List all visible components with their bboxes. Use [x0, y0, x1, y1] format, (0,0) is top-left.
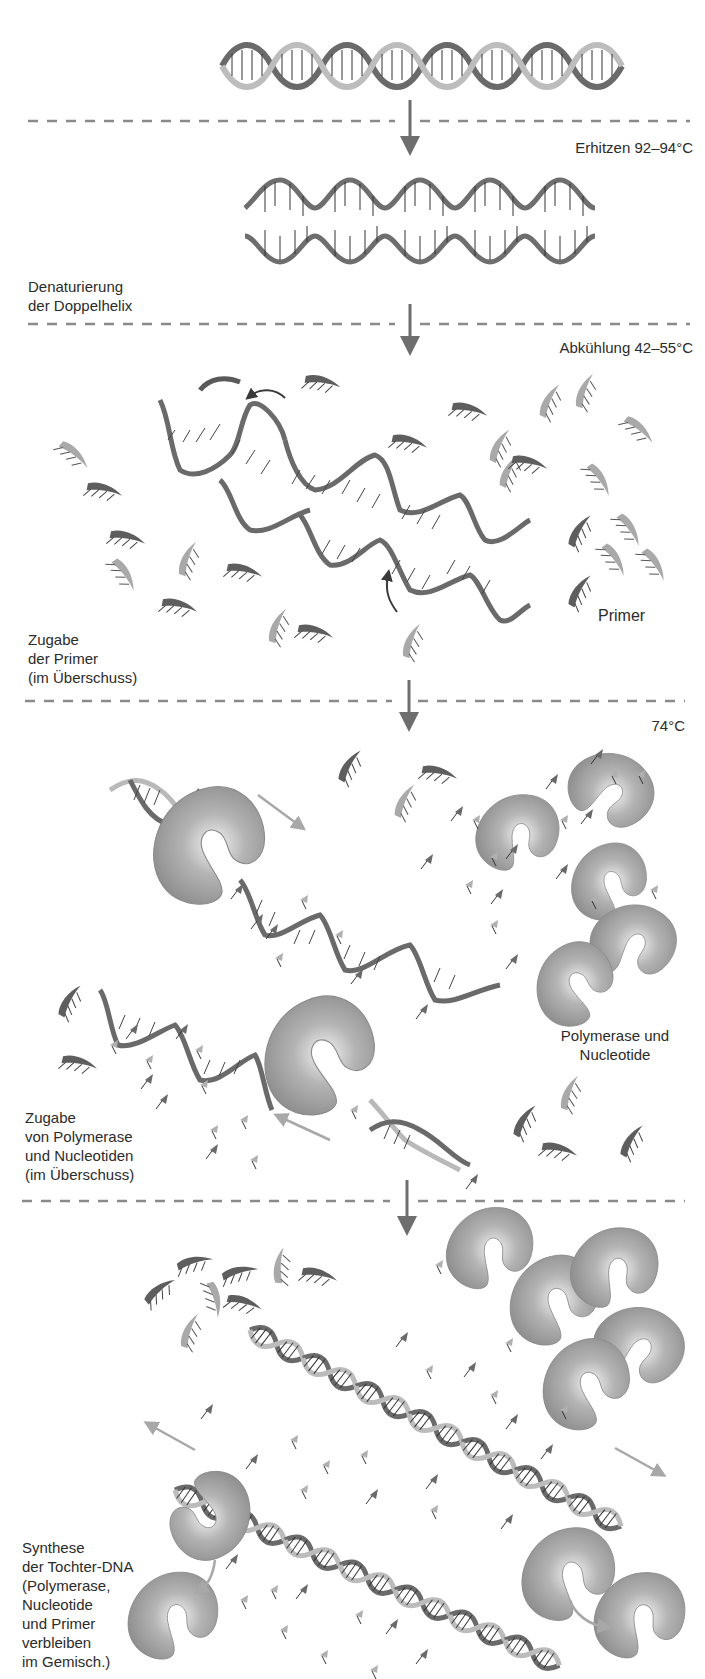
annotation-line: Polymerase und: [540, 1026, 690, 1045]
annealing-arrow-bottom: [387, 575, 397, 612]
stage-label-line: (im Überschuss): [28, 668, 137, 687]
step-arrows: [397, 100, 420, 1236]
annealing-arrow-top: [250, 390, 285, 398]
stage-label-line: Zugabe: [28, 630, 137, 649]
stage-label-line: im Gemisch.): [22, 1652, 133, 1671]
temperature-label-extension: 74°C: [651, 716, 685, 735]
stage-label-synthesis: Synthese der Tochter-DNA (Polymerase, Nu…: [22, 1538, 133, 1671]
annotation-polymerase-nucleotides: Polymerase und Nucleotide: [540, 1026, 690, 1064]
temperature-label-cooling: Abkühlung 42–55°C: [559, 338, 693, 357]
stage-label-line: (im Überschuss): [25, 1165, 134, 1184]
dna-single-strands: [245, 180, 595, 262]
stage-label-line: und Primer: [22, 1614, 133, 1633]
pcr-diagram: Erhitzen 92–94°C Denaturierung der Doppe…: [0, 0, 705, 1679]
dna-double-helix: [222, 45, 622, 87]
template-strands-annealing: [160, 379, 530, 621]
polymerase-enzymes-extension: [143, 736, 690, 1125]
stage-label-line: der Doppelhelix: [28, 296, 132, 315]
polymerase-enzymes-synthesis: [125, 1200, 698, 1667]
stage-label-line: von Polymerase: [25, 1127, 134, 1146]
stage-label-primer-addition: Zugabe der Primer (im Überschuss): [28, 630, 137, 687]
stage-label-line: der Primer: [28, 649, 137, 668]
stage-label-line: (Polymerase,: [22, 1576, 133, 1595]
stage-label-line: Zugabe: [25, 1108, 134, 1127]
stage-label-line: Synthese: [22, 1538, 133, 1557]
template-hatching: [168, 424, 490, 594]
stage-label-denaturation: Denaturierung der Doppelhelix: [28, 277, 132, 315]
free-primers: [53, 371, 670, 662]
stage-label-line: und Nucleotiden: [25, 1146, 134, 1165]
stage-label-line: Denaturierung: [28, 277, 132, 296]
stage-label-polymerase-addition: Zugabe von Polymerase und Nucleotiden (i…: [25, 1108, 134, 1184]
diagram-artwork: [0, 0, 705, 1679]
annotation-primer: Primer: [598, 606, 645, 625]
annotation-line: Nucleotide: [540, 1045, 690, 1064]
stage-label-line: der Tochter-DNA: [22, 1557, 133, 1576]
stage-label-line: Nucleotide: [22, 1595, 133, 1614]
stage-label-line: verbleiben: [22, 1633, 133, 1652]
temperature-label-heating: Erhitzen 92–94°C: [575, 138, 693, 157]
